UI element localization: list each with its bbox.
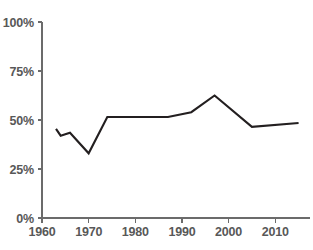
x-tick-label: 1970 (75, 225, 102, 239)
y-tick-label: 25% (10, 163, 35, 177)
y-tick-label: 100% (3, 16, 34, 30)
line-chart: 0%25%50%75%100% 196019701980199020002010 (0, 0, 313, 250)
y-tick-label: 75% (10, 65, 35, 79)
x-tick-label: 1980 (122, 225, 149, 239)
y-tick-label: 0% (16, 212, 34, 226)
chart-canvas: 0%25%50%75%100% 196019701980199020002010 (0, 0, 313, 250)
x-tick-label: 2000 (215, 225, 242, 239)
y-tick-label: 50% (10, 114, 35, 128)
x-tick-label: 1960 (28, 225, 55, 239)
x-tick-label: 2010 (262, 225, 289, 239)
x-tick-label: 1990 (168, 225, 195, 239)
